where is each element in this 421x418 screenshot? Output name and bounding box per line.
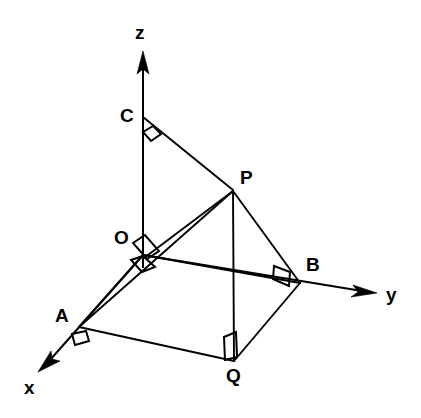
edge-AQ [79, 327, 234, 361]
point-label-P: P [240, 168, 253, 187]
right-angle-mark-A [72, 331, 89, 345]
point-label-A: A [55, 306, 69, 325]
edge-BP [233, 191, 300, 283]
geometry-canvas [0, 0, 421, 418]
point-label-B: B [306, 255, 320, 274]
axis-arrowhead-x [38, 351, 60, 372]
point-label-O: O [114, 228, 129, 247]
edge-PQ [233, 191, 234, 361]
axis-label-x: x [24, 378, 35, 397]
axis-label-y: y [386, 285, 397, 304]
edge-OA [79, 255, 143, 327]
axis-arrowhead-y [351, 285, 377, 297]
edge-group [79, 117, 300, 361]
edge-CP [143, 117, 233, 190]
right-angle-mark-Q [224, 332, 237, 360]
geometry-diagram: O A B C P Q x y z [0, 0, 421, 418]
axis-label-z: z [135, 23, 145, 42]
point-label-Q: Q [226, 366, 241, 385]
axis-group [38, 51, 377, 372]
edge-AP [79, 191, 233, 327]
edge-BQ [234, 283, 300, 361]
point-label-C: C [120, 106, 134, 125]
right-angle-group [72, 126, 290, 360]
edge-OB [143, 255, 300, 283]
